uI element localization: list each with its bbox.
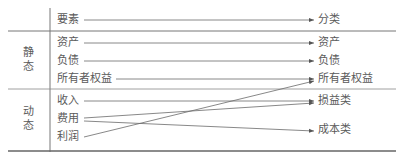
category-liability: 负债 xyxy=(318,55,340,67)
header-right: 分类 xyxy=(318,14,340,26)
element-asset: 资产 xyxy=(57,37,79,49)
group-static-line1: 静 xyxy=(20,46,36,60)
group-dynamic: 动 态 xyxy=(20,105,36,133)
group-dynamic-line1: 动 xyxy=(20,105,36,119)
arrow-expense-to-cost xyxy=(84,121,314,131)
group-static-line2: 态 xyxy=(20,60,36,74)
group-dynamic-line2: 态 xyxy=(20,119,36,133)
element-equity: 所有者权益 xyxy=(57,73,112,85)
arrow-expense-to-pl xyxy=(84,103,314,118)
category-cost: 成本类 xyxy=(318,124,351,136)
element-liability: 负债 xyxy=(57,55,79,67)
element-revenue: 收入 xyxy=(57,95,79,107)
element-profit: 利润 xyxy=(57,131,79,143)
category-asset: 资产 xyxy=(318,37,340,49)
header-left: 要素 xyxy=(57,14,79,26)
category-profit-loss: 损益类 xyxy=(318,95,351,107)
element-expense: 费用 xyxy=(57,113,79,125)
category-equity: 所有者权益 xyxy=(318,73,373,85)
group-static: 静 态 xyxy=(20,46,36,74)
